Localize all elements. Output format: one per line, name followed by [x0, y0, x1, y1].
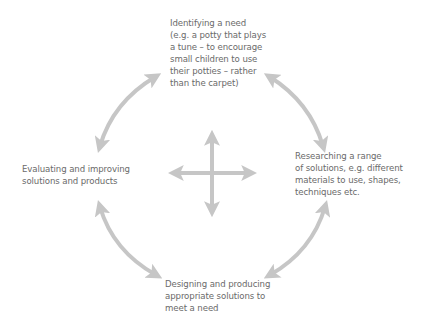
node-text-line: (e.g. a potty that plays: [170, 29, 266, 41]
node-text-line: than the carpet): [170, 77, 266, 89]
node-researching-solutions: Researching a range of solutions, e.g. d…: [295, 150, 403, 198]
node-text-line: appropriate solutions to: [165, 290, 270, 302]
node-text-line: a tune – to encourage: [170, 41, 266, 53]
arrow-left-top: [100, 77, 155, 146]
node-text-line: Evaluating and improving: [22, 163, 130, 175]
node-text-line: Designing and producing: [165, 278, 270, 290]
node-evaluating-improving: Evaluating and improving solutions and p…: [22, 163, 130, 187]
node-text-line: Researching a range: [295, 150, 403, 162]
node-text-line: solutions and products: [22, 175, 130, 187]
arrow-top-right: [270, 77, 323, 146]
node-text-line: their potties – rather: [170, 65, 266, 77]
node-text-line: of solutions, e.g. different: [295, 162, 403, 174]
arrow-left-bottom: [100, 207, 156, 275]
node-text-line: materials to use, shapes,: [295, 174, 403, 186]
node-text-line: meet a need: [165, 302, 270, 314]
node-designing-producing: Designing and producing appropriate solu…: [165, 278, 270, 314]
node-text-line: techniques etc.: [295, 186, 403, 198]
node-text-line: Identifying a need: [170, 17, 266, 29]
arrow-right-bottom: [270, 207, 325, 275]
four-way-arrow-icon: [175, 137, 250, 210]
node-text-line: small children to use: [170, 53, 266, 65]
node-identifying-need: Identifying a need (e.g. a potty that pl…: [170, 17, 266, 89]
